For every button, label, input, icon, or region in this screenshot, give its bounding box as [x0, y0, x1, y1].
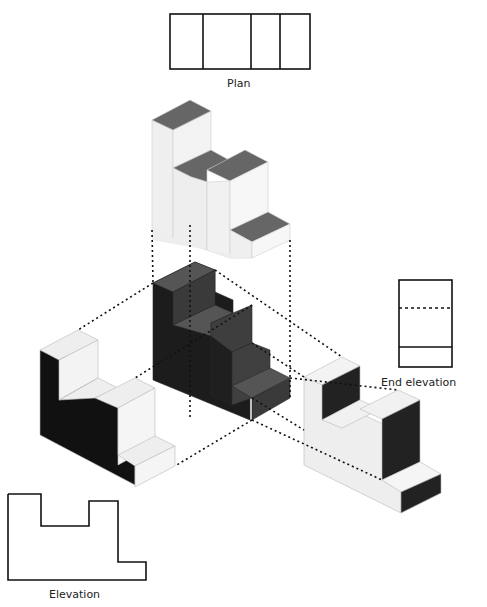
end-elevation-label: End elevation: [381, 376, 456, 389]
block-plan-shading: [152, 100, 290, 258]
plan-label: Plan: [227, 77, 250, 90]
elevation-label: Elevation: [49, 588, 100, 601]
elevation-view: [8, 494, 146, 580]
end-elevation-view: [399, 280, 452, 367]
projection-diagram: [0, 0, 487, 607]
block-center-dark: [153, 262, 290, 420]
plan-view: [170, 14, 310, 69]
